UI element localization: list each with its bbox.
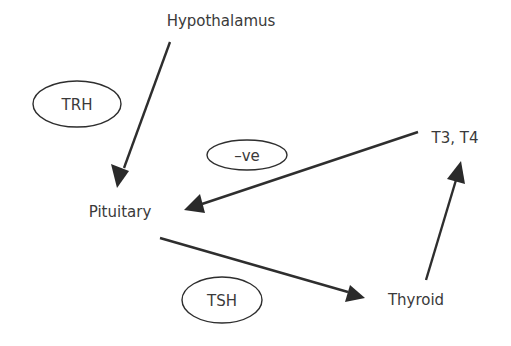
node-thyroid: Thyroid bbox=[387, 291, 444, 309]
edge-thyroid-to-t3t4 bbox=[426, 161, 465, 280]
oval-label-trh: TRH bbox=[61, 96, 93, 114]
thyroid-axis-diagram: Hypothalamus T3, T4 Pituitary Thyroid TR… bbox=[0, 0, 511, 346]
label-oval-negative-feedback: –ve bbox=[207, 140, 287, 170]
node-t3-t4: T3, T4 bbox=[431, 129, 479, 147]
arrowhead-icon bbox=[345, 285, 365, 302]
edge-pituitary-to-thyroid bbox=[160, 238, 365, 302]
node-hypothalamus: Hypothalamus bbox=[167, 12, 276, 30]
arrowhead-icon bbox=[447, 161, 465, 184]
node-pituitary: Pituitary bbox=[89, 203, 152, 221]
label-oval-trh: TRH bbox=[33, 81, 121, 127]
arrowhead-icon bbox=[111, 164, 129, 188]
oval-label-tsh: TSH bbox=[206, 292, 237, 310]
label-oval-tsh: TSH bbox=[182, 277, 262, 323]
edge-hypothalamus-to-pituitary bbox=[111, 42, 170, 188]
arrowhead-icon bbox=[184, 194, 205, 213]
oval-label-negative-feedback: –ve bbox=[234, 147, 260, 165]
